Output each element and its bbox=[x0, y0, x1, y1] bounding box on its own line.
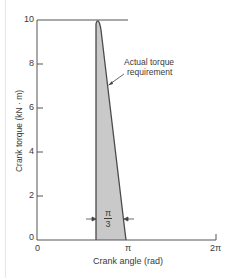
y-tick-label-8: 8 bbox=[29, 58, 34, 68]
x-tick-label-0: 0 bbox=[35, 243, 40, 253]
annotation-line-2: requirement bbox=[127, 67, 172, 77]
fraction-numerator: π bbox=[104, 208, 112, 219]
y-axis-title: Crank torque (kN · m) bbox=[14, 76, 24, 186]
y-tick-label-4: 4 bbox=[29, 146, 34, 156]
annotation-line-1: Actual torque bbox=[124, 57, 174, 67]
y-tick-label-0: 0 bbox=[29, 232, 34, 242]
annotation-arrowhead bbox=[108, 81, 113, 86]
y-tick-label-6: 6 bbox=[29, 102, 34, 112]
y-tick-label-2: 2 bbox=[29, 190, 34, 200]
pi-third-label: π 3 bbox=[104, 208, 112, 229]
fraction-denominator: 3 bbox=[104, 219, 112, 229]
x-axis-title: Crank angle (rad) bbox=[93, 256, 163, 266]
y-ticks bbox=[37, 64, 43, 196]
x-tick-label-pi: π bbox=[125, 243, 131, 253]
torque-chart bbox=[0, 0, 234, 278]
y-tick-label-10: 10 bbox=[24, 14, 34, 24]
x-tick-label-2pi: 2π bbox=[210, 243, 221, 253]
